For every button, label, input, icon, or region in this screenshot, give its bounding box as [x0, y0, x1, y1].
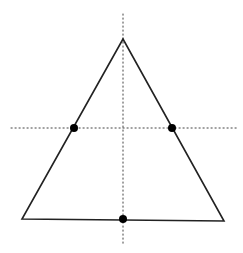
base-midpoint-dot: [119, 215, 127, 223]
background: [0, 0, 243, 253]
left-midpoint-dot: [70, 124, 78, 132]
triangle-diagram: [0, 0, 243, 253]
right-midpoint-dot: [168, 124, 176, 132]
